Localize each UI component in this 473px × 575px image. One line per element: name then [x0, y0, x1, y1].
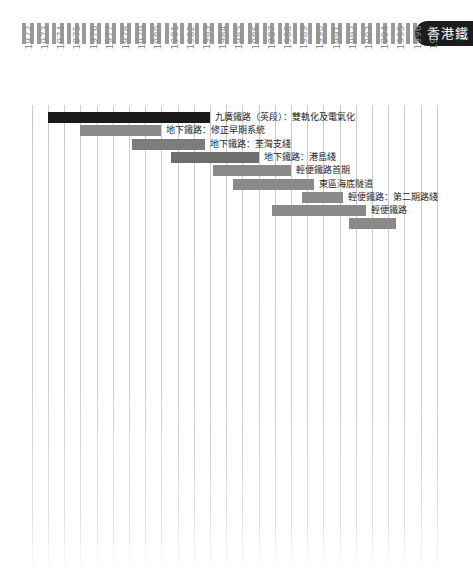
gantt-bar[interactable]: [233, 179, 314, 190]
year-label-1988: 1988: [283, 25, 294, 71]
header-stripe: [67, 23, 71, 44]
year-label-1991: 1991: [332, 25, 343, 71]
year-label-1982: 1982: [186, 25, 197, 71]
year-label-1973: 1973: [40, 25, 51, 71]
gantt-bar[interactable]: [272, 205, 366, 216]
year-label-1996: 1996: [413, 25, 424, 71]
year-label-1977: 1977: [105, 25, 116, 71]
gantt-bar-label: 輕便鐵路：第二期路綫: [348, 191, 438, 204]
year-label-1981: 1981: [170, 25, 181, 71]
gantt-bar[interactable]: [171, 152, 258, 163]
year-label-1976: 1976: [89, 25, 100, 71]
gantt-bar-label: 輕便鐵路首期: [296, 164, 350, 177]
gantt-bar[interactable]: [80, 125, 161, 136]
year-label-1983: 1983: [202, 25, 213, 71]
year-label-1979: 1979: [137, 25, 148, 71]
gantt-row[interactable]: 東區海底隧道: [0, 178, 473, 191]
year-label-1995: 1995: [396, 25, 407, 71]
gantt-bar-label: 地下鐵路：港島綫: [264, 151, 336, 164]
year-label-1994: 1994: [380, 25, 391, 71]
year-label-1989: 1989: [299, 25, 310, 71]
gantt-bar[interactable]: [48, 112, 210, 123]
year-label-1993: 1993: [364, 25, 375, 71]
year-label-1997: 1997: [429, 25, 440, 71]
gantt-bar-label: 東區海底隧道: [319, 178, 373, 191]
gantt-bar[interactable]: [349, 218, 396, 229]
year-label-1992: 1992: [348, 25, 359, 71]
gantt-row[interactable]: 地下鐵路：修正早期系統: [0, 124, 473, 137]
year-label-1974: 1974: [56, 25, 67, 71]
gantt-row[interactable]: 輕便鐵路首期: [0, 164, 473, 177]
gantt-bar-label: 輕便鐵路: [371, 204, 407, 217]
year-label-1985: 1985: [234, 25, 245, 71]
year-label-1987: 1987: [267, 25, 278, 71]
gantt-bar-label: 地下鐵路：修正早期系統: [166, 124, 265, 137]
gantt-row[interactable]: [0, 217, 473, 230]
year-label-1978: 1978: [121, 25, 132, 71]
gantt-bar-label: 地下鐵路：荃灣支綫: [210, 138, 291, 151]
gantt-row[interactable]: 九廣鐵路（英段）：雙軌化及電氣化: [0, 111, 473, 124]
year-label-1980: 1980: [153, 25, 164, 71]
year-label-1975: 1975: [72, 25, 83, 71]
year-label-1972: 1972: [24, 25, 35, 71]
gantt-chart: 1972197319741975197619771978197919801981…: [0, 60, 473, 530]
gantt-row[interactable]: 地下鐵路：港島綫: [0, 151, 473, 164]
gantt-bar[interactable]: [213, 165, 291, 176]
gantt-row[interactable]: 地下鐵路：荃灣支綫: [0, 138, 473, 151]
year-label-1984: 1984: [218, 25, 229, 71]
gantt-bar[interactable]: [132, 139, 205, 150]
gantt-row[interactable]: 輕便鐵路：第二期路綫: [0, 191, 473, 204]
header-stripe: [165, 23, 169, 44]
year-label-1986: 1986: [251, 25, 262, 71]
header-stripe: [278, 23, 282, 44]
gantt-bar[interactable]: [302, 192, 343, 203]
year-label-1990: 1990: [315, 25, 326, 71]
header-stripe: [391, 23, 395, 44]
gantt-bar-label: 九廣鐵路（英段）：雙軌化及電氣化: [215, 111, 355, 124]
gantt-row[interactable]: 輕便鐵路: [0, 204, 473, 217]
